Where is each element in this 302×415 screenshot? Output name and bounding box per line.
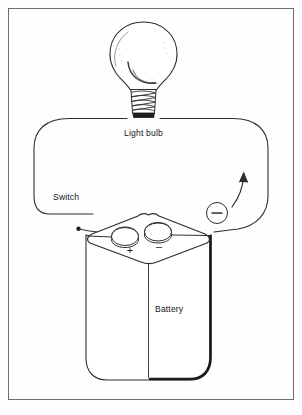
minus-glyph — [212, 212, 223, 214]
positive-sign-label: + — [127, 244, 133, 256]
light-bulb-label: Light bulb — [124, 128, 163, 138]
switch-contact-dot — [76, 227, 80, 231]
switch-label: Switch — [53, 192, 79, 202]
battery-label: Battery — [155, 304, 184, 314]
battery-icon: + – — [86, 214, 211, 380]
circuit-diagram-figure: Light bulb Switch — [0, 0, 302, 415]
negative-charge-marker — [207, 203, 228, 224]
negative-sign-label: – — [156, 240, 163, 252]
negative-terminal-wire — [171, 235, 209, 236]
diagram-canvas: Light bulb Switch — [0, 0, 302, 415]
battery-positive-terminal — [112, 227, 139, 248]
bulb-contact-tip — [133, 113, 154, 118]
